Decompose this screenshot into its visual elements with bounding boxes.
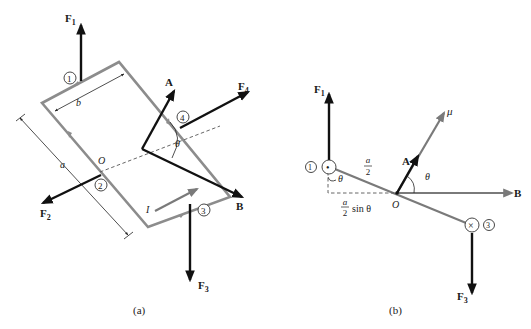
caption-a: (a) [133, 304, 146, 317]
origin-label: O [392, 199, 399, 210]
svg-text:4: 4 [180, 113, 185, 123]
svg-text:1: 1 [308, 163, 312, 172]
svg-text:3: 3 [486, 221, 490, 230]
vector-A-label: A [165, 76, 173, 88]
svg-text:3: 3 [201, 206, 206, 216]
force-F1-label: F1 [65, 12, 76, 27]
svg-text:•: • [326, 162, 330, 173]
svg-text:2: 2 [98, 181, 103, 191]
theta-arc-top [407, 176, 414, 193]
theta-label-left: θ [338, 173, 343, 184]
dimension-a-tick-top [16, 114, 25, 121]
current-I-label: I [145, 204, 150, 215]
svg-text:2: 2 [343, 208, 348, 218]
dimension-a-tick-bottom [124, 232, 133, 239]
panel-a: b a O θ A B F1 1 F2 2 F3 3 F [16, 12, 249, 317]
rotation-axis [100, 126, 220, 172]
svg-text:1: 1 [67, 74, 72, 84]
force-F4 [180, 92, 248, 128]
dimension-a-line [20, 118, 128, 235]
lever-arm-label: a 2 sin θ [341, 197, 371, 218]
vector-B-label: B [514, 187, 522, 199]
svg-text:sin θ: sin θ [352, 203, 371, 214]
half-length-label: a 2 [364, 155, 372, 177]
theta-label-top: θ [425, 171, 430, 182]
theta-label: θ [175, 138, 180, 149]
force-F2 [43, 175, 101, 203]
loop-edge-view [330, 167, 471, 225]
force-F4-label: F4 [238, 80, 249, 95]
vector-mu-label: μ [446, 105, 453, 117]
field-vector-B [142, 149, 242, 197]
current-loop [42, 62, 230, 227]
force-F3-label: F3 [457, 290, 468, 305]
panel-b: B μ A θ θ a 2 a 2 sin θ O F1 • [306, 83, 523, 317]
force-F2-label: F2 [40, 207, 51, 222]
origin-point [395, 191, 399, 195]
theta-arc-left [328, 177, 336, 181]
dimension-b-label: b [76, 97, 81, 108]
force-F1-label: F1 [314, 83, 325, 98]
origin-label: O [98, 155, 105, 166]
vector-A-label: A [402, 155, 410, 167]
svg-text:a: a [343, 197, 348, 207]
svg-text:a: a [366, 155, 371, 165]
caption-b: (b) [389, 304, 402, 317]
loop-current-arrows [68, 81, 184, 218]
force-F3-label: F3 [198, 279, 209, 294]
vector-B-label: B [236, 200, 244, 212]
svg-text:2: 2 [366, 167, 371, 177]
svg-text:×: × [468, 220, 474, 231]
torque-on-loop-figure: b a O θ A B F1 1 F2 2 F3 3 F [0, 0, 531, 329]
dimension-a-label: a [60, 159, 65, 170]
